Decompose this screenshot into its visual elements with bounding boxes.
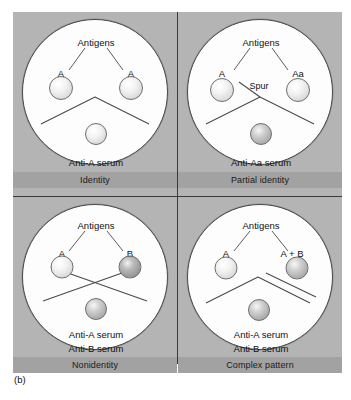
antigens-label: Antigens [78, 220, 115, 231]
antigen-well-left [51, 256, 74, 279]
antiserum-well [248, 299, 270, 321]
antiserum-label-2: Anti-B serum [69, 343, 124, 354]
antigen-well-left [215, 257, 238, 280]
panel-label-partial-identity: Partial identity [178, 172, 342, 188]
panel-label-bar-identity: Identity [13, 172, 177, 188]
panel-partial-identity: Antigens A Aa Spur Anti-Aa serum Partial… [178, 12, 342, 188]
antigen-well-left [49, 76, 73, 100]
antiserum-well [85, 123, 107, 145]
panel-nonidentity: Antigens A B Anti-A serum Anti-B serum N… [13, 197, 177, 373]
antigen-well-right [286, 257, 309, 280]
immunodiffusion-figure: Antigens A A Anti-A serum Identity [0, 0, 351, 400]
agar-plate-partial-identity: Antigens A Aa Spur Anti-Aa serum [178, 12, 342, 172]
panel-grid: Antigens A A Anti-A serum Identity [13, 12, 342, 364]
well-label-left: A [219, 68, 225, 79]
panel-identity: Antigens A A Anti-A serum Identity [13, 12, 177, 188]
agar-plate-nonidentity: Antigens A B Anti-A serum Anti-B serum [13, 197, 177, 357]
antiserum-label-2: Anti-B serum [234, 343, 289, 354]
panel-label-identity: Identity [13, 172, 177, 188]
agar-plate-complex-pattern: Antigens A A + B Anti-A serum Anti-B ser… [178, 197, 342, 357]
antigen-well-right [119, 76, 143, 100]
antiserum-label: Anti-Aa serum [231, 157, 291, 168]
well-label-right: Aa [292, 68, 304, 79]
figure-caption: (b) [14, 374, 26, 385]
antigen-well-left [210, 78, 234, 102]
panel-label-complex-pattern: Complex pattern [178, 357, 342, 373]
spur-label: Spur [249, 81, 268, 91]
antiserum-label-1: Anti-A serum [234, 329, 288, 340]
agar-plate-identity: Antigens A A Anti-A serum [13, 12, 177, 172]
antiserum-label: Anti-A serum [69, 157, 123, 168]
panel-label-bar-partial-identity: Partial identity [178, 172, 342, 188]
panel-label-bar-nonidentity: Nonidentity [13, 357, 177, 373]
antigen-well-right [119, 256, 142, 279]
antiserum-well [85, 298, 107, 320]
antiserum-well [250, 123, 272, 145]
panel-label-nonidentity: Nonidentity [13, 357, 177, 373]
antigens-label: Antigens [243, 37, 280, 48]
antigen-well-right [286, 78, 310, 102]
antigens-label: Antigens [78, 37, 115, 48]
panel-complex-pattern: Antigens A A + B Anti-A serum Anti-B ser… [178, 197, 342, 373]
antigens-label: Antigens [243, 220, 280, 231]
panel-label-bar-complex-pattern: Complex pattern [178, 357, 342, 373]
antiserum-label-1: Anti-A serum [69, 329, 123, 340]
